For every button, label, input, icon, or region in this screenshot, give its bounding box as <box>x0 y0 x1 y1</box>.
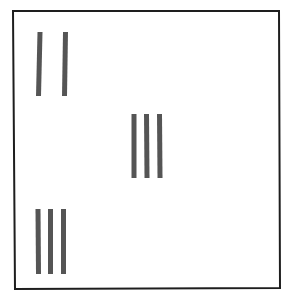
diagram-canvas <box>0 0 293 302</box>
tally-bar <box>147 114 148 178</box>
tally-bar <box>38 209 39 274</box>
tally-bar <box>65 32 66 96</box>
tally-bar <box>39 32 41 96</box>
tally-bar <box>160 114 161 178</box>
